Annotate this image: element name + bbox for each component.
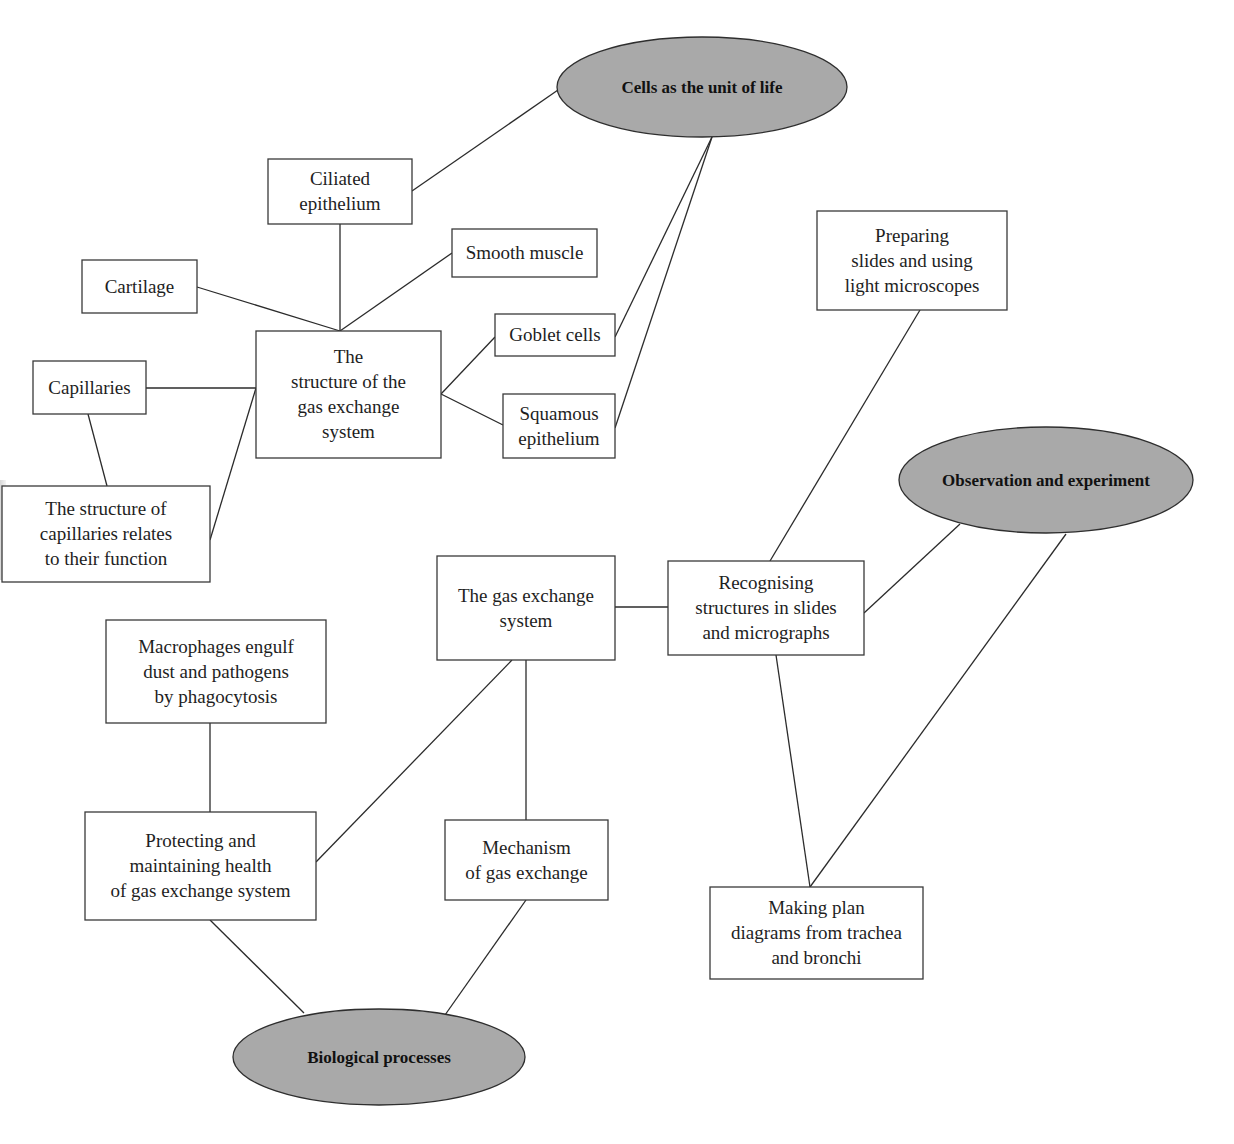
connector-goblet-cells — [615, 137, 712, 337]
concept-label-line: epithelium — [518, 428, 599, 449]
connector-squamous-cells — [615, 137, 712, 428]
concept-label-line: The structure of — [45, 498, 167, 519]
theme-node-cells: Cells as the unit of life — [557, 37, 847, 137]
concept-node-structure: Thestructure of thegas exchangesystem — [256, 331, 441, 458]
concept-node-goblet: Goblet cells — [495, 314, 615, 356]
concept-label-line: Smooth muscle — [466, 242, 584, 263]
concept-node-plan: Making plandiagrams from tracheaand bron… — [710, 887, 923, 979]
concept-node-preparing: Preparingslides and usinglight microscop… — [817, 211, 1007, 310]
concept-node-recognising: Recognisingstructures in slidesand micro… — [668, 561, 864, 655]
connector-ciliated-cells — [412, 90, 558, 191]
concept-label-line: Capillaries — [48, 377, 130, 398]
concept-label-line: of gas exchange system — [111, 880, 291, 901]
concept-label-line: system — [500, 610, 553, 631]
concept-node-cartilage: Cartilage — [82, 260, 197, 313]
concept-label-line: epithelium — [299, 193, 380, 214]
connector-capfunc-structure — [210, 388, 256, 540]
connector-capillaries-capfunc — [88, 414, 107, 486]
concept-node-squamous: Squamousepithelium — [503, 394, 615, 458]
concept-label-line: The — [334, 346, 364, 367]
concept-label-line: Recognising — [719, 572, 814, 593]
connector-recognising-observation — [864, 524, 960, 613]
connector-cartilage-structure — [197, 287, 340, 331]
concept-label-line: and micrographs — [702, 622, 829, 643]
theme-node-biological: Biological processes — [233, 1009, 525, 1105]
concept-label-line: The gas exchange — [458, 585, 594, 606]
concept-label-line: gas exchange — [298, 396, 400, 417]
connector-recognising-plan — [776, 655, 810, 887]
theme-label: Cells as the unit of life — [621, 78, 782, 97]
theme-label: Observation and experiment — [942, 471, 1150, 490]
concept-label-line: Cartilage — [105, 276, 175, 297]
concept-label-line: diagrams from trachea — [731, 922, 902, 943]
concept-label-line: Goblet cells — [509, 324, 600, 345]
connector-goblet-structure — [441, 337, 495, 394]
connector-mechanism-biological — [445, 900, 526, 1015]
concept-label-line: structure of the — [291, 371, 406, 392]
concept-label-line: Preparing — [875, 225, 949, 246]
concept-label-line: Macrophages engulf — [138, 636, 294, 657]
concept-label-line: dust and pathogens — [143, 661, 289, 682]
concept-node-capfunc: The structure ofcapillaries relatesto th… — [2, 486, 210, 582]
concept-label-line: and bronchi — [771, 947, 861, 968]
concept-box — [445, 820, 608, 900]
concept-box — [437, 556, 615, 660]
concept-label-line: Making plan — [768, 897, 865, 918]
concept-label-line: Mechanism — [482, 837, 571, 858]
concept-label-line: structures in slides — [695, 597, 836, 618]
concept-label-line: to their function — [45, 548, 168, 569]
concept-node-capillaries: Capillaries — [33, 361, 146, 414]
connector-squamous-structure — [441, 394, 503, 425]
concept-map-canvas: CiliatedepitheliumSmooth muscleCartilage… — [0, 0, 1234, 1144]
concept-label-line: maintaining health — [130, 855, 272, 876]
theme-node-observation: Observation and experiment — [899, 427, 1193, 533]
connector-preparing-recognising — [770, 310, 920, 561]
concept-node-macrophages: Macrophages engulfdust and pathogensby p… — [106, 620, 326, 723]
concept-label-line: Squamous — [519, 403, 598, 424]
concept-label-line: Ciliated — [310, 168, 371, 189]
theme-label: Biological processes — [307, 1048, 451, 1067]
nodes-layer: CiliatedepitheliumSmooth muscleCartilage… — [2, 37, 1193, 1105]
concept-label-line: light microscopes — [845, 275, 980, 296]
concept-node-smooth: Smooth muscle — [452, 229, 597, 277]
concept-node-ciliated: Ciliatedepithelium — [268, 159, 412, 224]
concept-label-line: of gas exchange — [465, 862, 587, 883]
concept-label-line: system — [322, 421, 375, 442]
concept-label-line: by phagocytosis — [155, 686, 278, 707]
concept-label-line: Protecting and — [145, 830, 256, 851]
concept-node-mechanism: Mechanismof gas exchange — [445, 820, 608, 900]
concept-label-line: slides and using — [851, 250, 973, 271]
concept-label-line: capillaries relates — [40, 523, 172, 544]
concept-map: CiliatedepitheliumSmooth muscleCartilage… — [0, 0, 1234, 1144]
connector-protecting-biological — [210, 920, 304, 1013]
connector-smooth-structure — [340, 253, 452, 331]
concept-node-protecting: Protecting andmaintaining healthof gas e… — [85, 812, 316, 920]
concept-node-gassys: The gas exchangesystem — [437, 556, 615, 660]
